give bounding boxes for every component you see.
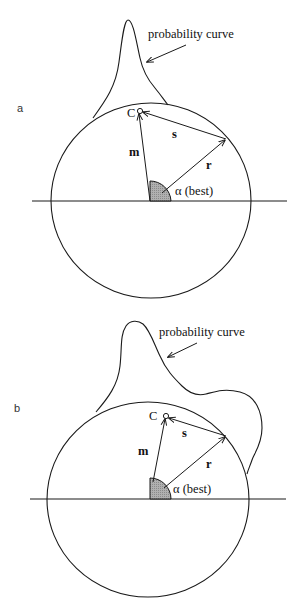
- vector-s-label: s: [182, 426, 187, 440]
- figure: a probability curve C m s r α (best): [0, 0, 305, 610]
- vector-r: [164, 437, 225, 488]
- point-c: [163, 413, 168, 418]
- vector-s: [143, 112, 226, 139]
- panel-a: a probability curve C m s r α (best): [17, 20, 287, 298]
- panel-b: b probability curve C m s r α (best): [14, 321, 286, 597]
- curve-label: probability curve: [148, 27, 234, 41]
- curve-pointer-arrow: [147, 45, 186, 62]
- angle-label: α (best): [173, 482, 211, 496]
- angle-label: α (best): [175, 184, 213, 198]
- vector-m-label: m: [129, 145, 140, 159]
- panel-label: a: [17, 102, 24, 114]
- vector-r-label: r: [206, 457, 212, 471]
- vector-m-label: m: [138, 444, 149, 458]
- vector-r-label: r: [206, 158, 212, 172]
- vector-m: [139, 114, 150, 201]
- curve-pointer-arrow: [168, 343, 197, 357]
- curve-label: probability curve: [159, 325, 245, 339]
- vector-s: [169, 418, 226, 436]
- point-label: C: [149, 409, 157, 423]
- vector-s-label: s: [172, 127, 177, 141]
- vector-m: [153, 419, 165, 482]
- point-label: C: [127, 106, 135, 120]
- point-c: [137, 108, 142, 113]
- angle-wedge: [150, 181, 171, 201]
- probability-curve: [96, 321, 262, 474]
- panel-label: b: [14, 402, 20, 414]
